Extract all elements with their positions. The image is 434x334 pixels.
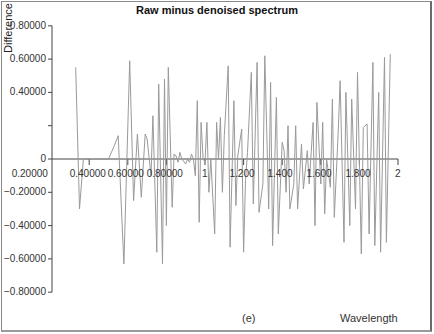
x-tick-label: 1 [202,168,208,179]
x-tick-label: 1.800 [346,168,371,179]
x-tick-label: 0.20000 [12,168,48,179]
x-tick-label: 0.40000 [70,168,106,179]
panel-label: (e) [242,312,255,324]
x-tick-label: 2 [395,168,401,179]
x-tick-label: 1.200 [230,168,255,179]
plot-area [0,0,434,334]
y-tick-label: −0.40000 [0,220,46,231]
y-tick-label: 0.40000 [0,86,46,97]
y-tick-label: 0.80000 [0,20,46,31]
x-axis-label: Wavelength [340,312,398,324]
y-tick-label: 0 [0,153,46,164]
x-tick-label: 0.60000 [108,168,144,179]
y-tick-label: 0.60000 [0,53,46,64]
y-tick-label: −0.20000 [0,186,46,197]
x-tick-label: 0.80000 [147,168,183,179]
x-tick-label: 1.400 [268,168,293,179]
x-tick-label: 1.600 [307,168,332,179]
y-tick-label: −0.80000 [0,286,46,297]
y-tick-label: −0.60000 [0,253,46,264]
